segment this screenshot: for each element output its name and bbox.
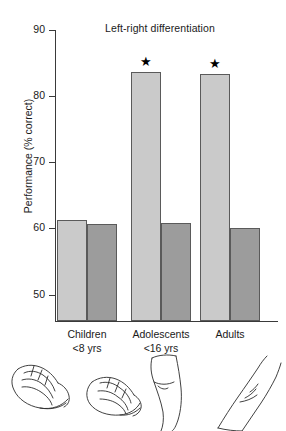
bar-adults-dark-bar	[230, 228, 260, 321]
significance-star-adults: ★	[209, 57, 221, 70]
bar-children-dark-bar	[87, 224, 117, 321]
y-tick-label-60: 60	[5, 221, 45, 233]
x-axis-line	[55, 321, 278, 322]
y-tick-50	[49, 295, 55, 296]
y-tick-label-90: 90	[5, 23, 45, 35]
y-tick-80	[49, 96, 55, 97]
y-tick-label-70: 70	[5, 155, 45, 167]
y-tick-60	[49, 228, 55, 229]
bar-adolescents-dark-bar	[161, 223, 191, 321]
y-tick-label-80: 80	[5, 89, 45, 101]
y-tick-90	[49, 30, 55, 31]
figure: Left-right differentiation Performance (…	[0, 0, 286, 431]
x-label-adults: Adults	[175, 328, 285, 340]
y-tick-70	[49, 162, 55, 163]
bar-children-light-bar	[57, 220, 87, 321]
hand-drawings-svg	[0, 352, 286, 431]
bar-adolescents-light-bar	[131, 72, 161, 321]
bar-adults-light-bar	[200, 74, 230, 321]
plot-area: ★★	[56, 30, 278, 321]
y-tick-label-50: 50	[5, 288, 45, 300]
hand-illustrations	[0, 352, 286, 431]
x-label-primary: Adults	[215, 328, 244, 340]
significance-star-adolescents: ★	[140, 55, 152, 68]
x-label-primary: Children	[67, 328, 106, 340]
